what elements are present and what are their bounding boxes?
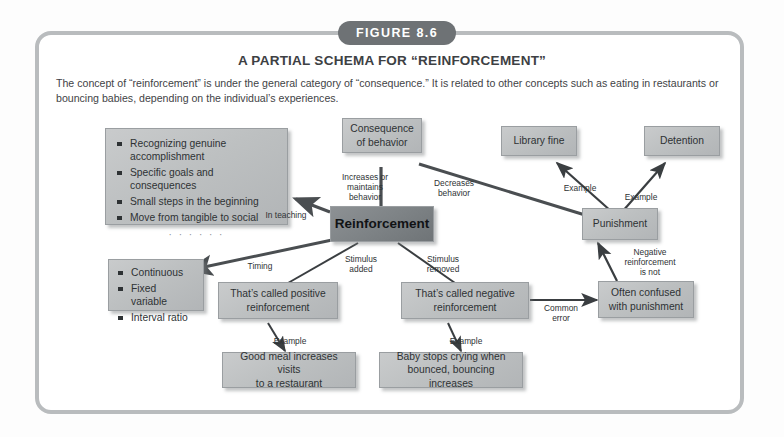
edge-label-stimulus-added: Stimulus added bbox=[333, 254, 389, 274]
edge-label-timing: Timing bbox=[238, 261, 282, 271]
ellipsis-marker: · · · · · · bbox=[116, 228, 277, 242]
figure-number-badge: FIGURE 8.6 bbox=[338, 21, 456, 45]
node-good-meal[interactable]: Good meal increases visits to a restaura… bbox=[222, 352, 356, 388]
edge-label-example-library-fine: Example bbox=[558, 183, 602, 193]
list-item: Move from tangible to social bbox=[116, 211, 277, 224]
edge-label-decreases-behavior: Decreases behavior bbox=[422, 178, 486, 198]
node-often-confused[interactable]: Often confused with punishment bbox=[598, 281, 694, 318]
edge-label-in-teaching: In teaching bbox=[257, 210, 315, 220]
edge-label-example-detention: Example bbox=[619, 192, 663, 202]
schedules-list: Continuous Fixed variable Interval ratio bbox=[117, 266, 195, 324]
list-item: Continuous bbox=[117, 266, 195, 279]
list-item: Interval ratio bbox=[117, 311, 195, 324]
node-positive-reinforcement[interactable]: That’s called positive reinforcement bbox=[218, 282, 338, 319]
node-schedules[interactable]: Continuous Fixed variable Interval ratio bbox=[108, 259, 204, 311]
node-detention[interactable]: Detention bbox=[644, 126, 720, 156]
list-item: Specific goals and consequences bbox=[116, 166, 277, 192]
node-consequence-of-behavior[interactable]: Consequence of behavior bbox=[342, 118, 422, 153]
edge-label-example-baby: Example bbox=[444, 336, 488, 346]
list-item: Small steps in the beginning bbox=[116, 195, 277, 208]
edge-label-negative-reinforcement-is-not: Negative reinforcement is not bbox=[611, 247, 689, 277]
edge-label-stimulus-removed: Stimulus removed bbox=[412, 254, 474, 274]
node-library-fine[interactable]: Library fine bbox=[501, 126, 577, 156]
figure-container: FIGURE 8.6 A PARTIAL SCHEMA FOR “REINFOR… bbox=[0, 0, 784, 437]
edge-label-example-good-meal: Example bbox=[268, 336, 312, 346]
edge-label-common-error: Common error bbox=[530, 303, 592, 323]
edge-label-increases-maintains: Increases or maintains behavior bbox=[330, 172, 400, 202]
figure-title: A PARTIAL SCHEMA FOR “REINFORCEMENT” bbox=[0, 53, 784, 68]
list-item: Recognizing genuine accomplishment bbox=[116, 137, 277, 163]
figure-description: The concept of “reinforcement” is under … bbox=[56, 76, 728, 106]
node-punishment[interactable]: Punishment bbox=[582, 208, 658, 240]
list-item: Fixed variable bbox=[117, 282, 195, 308]
node-baby-bouncing[interactable]: Baby stops crying when bounced, bouncing… bbox=[379, 352, 523, 388]
node-negative-reinforcement[interactable]: That’s called negative reinforcement bbox=[401, 282, 529, 319]
node-reinforcement[interactable]: Reinforcement bbox=[330, 206, 434, 242]
teaching-tips-list: Recognizing genuine accomplishment Speci… bbox=[116, 137, 277, 224]
